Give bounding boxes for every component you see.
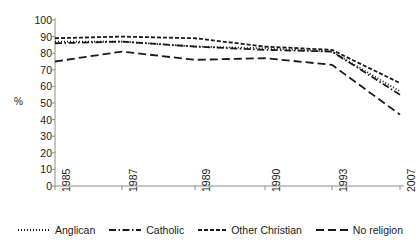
legend-swatch-dash-dot-icon (108, 226, 142, 234)
legend-label: Anglican (55, 224, 95, 236)
legend-swatch-dotted-icon (17, 226, 51, 234)
legend-item-no-religion[interactable]: No religion (315, 224, 403, 236)
x-tick-1985: 1985 (60, 169, 72, 192)
legend-label: No religion (353, 224, 403, 236)
chart-container: % 1009080706050403020100 198519871989199… (0, 0, 420, 247)
legend-label: Other Christian (231, 224, 302, 236)
x-tick-2007: 2007 (405, 169, 417, 192)
series-line-catholic (55, 42, 400, 95)
chart-legend: AnglicanCatholicOther ChristianNo religi… (0, 218, 420, 242)
legend-item-other-christian[interactable]: Other Christian (197, 224, 302, 236)
legend-swatch-short-dash-icon (197, 226, 227, 234)
plot-area: % 1009080706050403020100 198519871989199… (0, 0, 420, 200)
legend-swatch-long-dash-icon (315, 226, 349, 234)
x-tick-1989: 1989 (200, 169, 212, 192)
x-tick-1990: 1990 (270, 169, 282, 192)
legend-item-anglican[interactable]: Anglican (17, 224, 95, 236)
x-tick-1993: 1993 (337, 169, 349, 192)
x-tick-1987: 1987 (127, 169, 139, 192)
series-line-anglican (55, 42, 400, 92)
legend-label: Catholic (146, 224, 184, 236)
legend-item-catholic[interactable]: Catholic (108, 224, 184, 236)
series-line-no-religion (55, 52, 400, 115)
